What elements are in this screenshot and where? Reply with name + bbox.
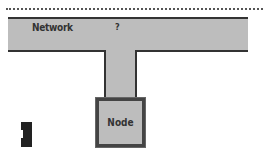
node-box: Node bbox=[96, 98, 145, 147]
link-question-label: ? bbox=[115, 22, 120, 32]
dotted-divider bbox=[6, 8, 263, 10]
network-bar: Network bbox=[8, 17, 248, 52]
block-notch bbox=[20, 130, 23, 138]
network-label: Network bbox=[32, 22, 73, 33]
black-block-icon bbox=[21, 122, 32, 147]
node-label: Node bbox=[107, 117, 133, 128]
network-node-link bbox=[104, 50, 137, 99]
